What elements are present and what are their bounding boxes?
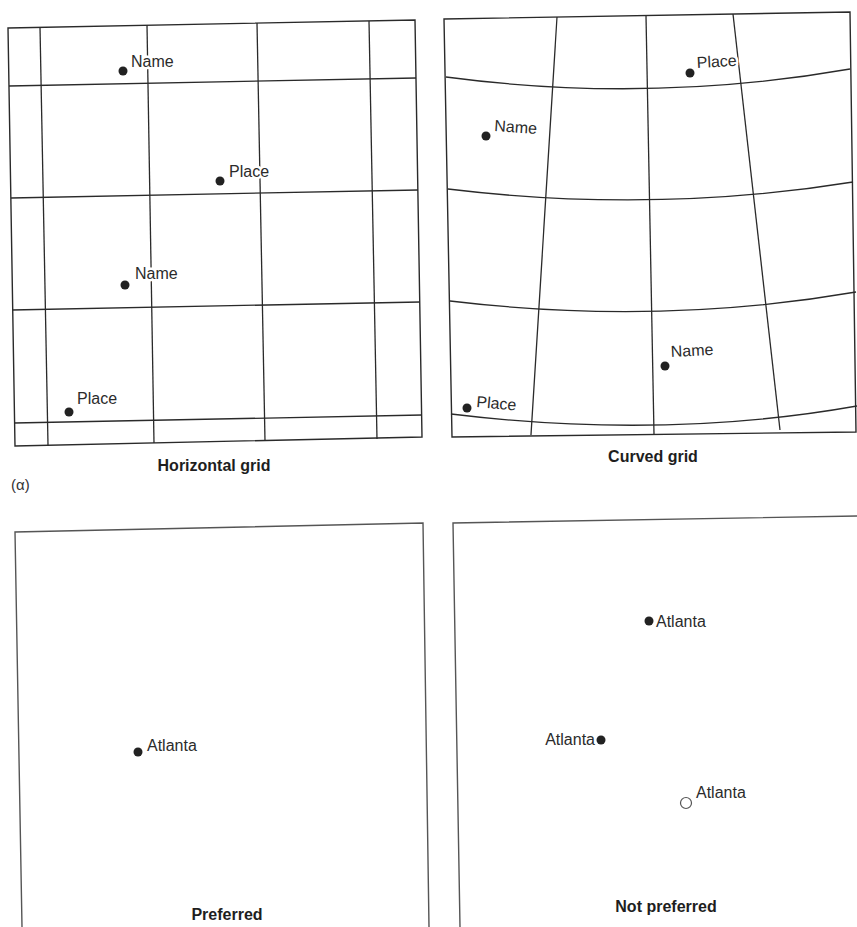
filled-point-icon: [661, 362, 670, 371]
caption-not-preferred: Not preferred: [615, 898, 716, 915]
panel-preferred: AtlantaAtlanta Preferred: [15, 523, 429, 927]
grid-line-v: [369, 21, 377, 439]
filled-point-icon: [134, 748, 143, 757]
hollow-point-icon: [681, 798, 692, 809]
place-name-text: Name: [670, 341, 714, 360]
filled-point-icon: [597, 736, 606, 745]
place-name-text: Name: [131, 53, 174, 70]
caption-preferred: Preferred: [191, 906, 262, 923]
place-name-text: Name: [494, 117, 538, 137]
grid-line-parallel: [448, 182, 853, 200]
place-name-text: Name: [135, 265, 178, 282]
grid-line-meridian: [646, 16, 654, 434]
panel-horizontal-grid: NameNamePlacePlaceNameNamePlacePlace: [8, 20, 422, 446]
place-label-name: NameName: [661, 341, 714, 371]
filled-point-icon: [463, 404, 472, 413]
filled-point-icon: [65, 408, 74, 417]
place-label-atlanta: AtlantaAtlanta: [545, 731, 605, 748]
place-name-text: Place: [229, 163, 269, 180]
filled-point-icon: [216, 177, 225, 186]
place-name-text: Place: [77, 390, 117, 407]
place-label-name: NameName: [482, 117, 538, 140]
grid-line-h: [12, 302, 420, 310]
filled-point-icon: [645, 617, 654, 626]
place-labels: PlacePlaceNameNameNameNamePlacePlace: [463, 52, 738, 414]
place-name-text: Atlanta: [545, 731, 595, 748]
grid-line-h: [9, 78, 416, 86]
place-name-text: Atlanta: [147, 737, 197, 754]
grid-line-v: [40, 27, 48, 445]
filled-point-icon: [119, 67, 128, 76]
place-label-atlanta: AtlantaAtlanta: [134, 737, 197, 757]
caption-curved-grid: Curved grid: [608, 448, 698, 465]
place-label-name: NameName: [121, 265, 178, 290]
grid-line-parallel: [450, 292, 856, 312]
panel-frame: [453, 516, 857, 927]
place-labels: AtlantaAtlantaAtlantaAtlantaAtlantaAtlan…: [545, 613, 746, 809]
place-label-atlanta: AtlantaAtlanta: [681, 784, 746, 809]
place-labels: AtlantaAtlanta: [134, 737, 197, 757]
filled-point-icon: [482, 132, 491, 141]
place-name-text: Atlanta: [656, 613, 706, 630]
place-name-text: Place: [696, 52, 737, 71]
panel-frame: [8, 20, 422, 446]
grid-line-meridian: [531, 17, 557, 435]
panel-curved-grid: PlacePlaceNameNameNameNamePlacePlace: [444, 12, 857, 437]
figure-stage: NameNamePlacePlaceNameNamePlacePlace Pla…: [0, 0, 857, 927]
grid-line-h: [14, 415, 422, 423]
figure-canvas: NameNamePlacePlaceNameNamePlacePlace Pla…: [0, 0, 857, 927]
place-name-text: Atlanta: [696, 784, 746, 801]
place-name-text: Place: [476, 393, 517, 413]
place-label-place: PlacePlace: [463, 393, 518, 413]
place-label-place: PlacePlace: [216, 163, 270, 186]
caption-horizontal-grid: Horizontal grid: [158, 457, 271, 474]
grid-line-v: [257, 23, 265, 441]
figure-part-label: (α): [11, 476, 30, 493]
filled-point-icon: [686, 69, 695, 78]
grid-line-h: [11, 190, 418, 198]
place-label-atlanta: AtlantaAtlanta: [645, 613, 706, 630]
grid-line-v: [147, 25, 154, 443]
grid-line-parallel: [446, 69, 850, 89]
place-label-name: NameName: [119, 53, 174, 76]
place-label-place: PlacePlace: [65, 390, 118, 417]
grid-line-meridian: [733, 14, 780, 430]
place-label-place: PlacePlace: [686, 52, 738, 78]
filled-point-icon: [121, 281, 130, 290]
place-labels: NameNamePlacePlaceNameNamePlacePlace: [65, 53, 270, 417]
panel-not-preferred: AtlantaAtlantaAtlantaAtlantaAtlantaAtlan…: [453, 516, 857, 927]
panel-frame: [15, 523, 429, 927]
